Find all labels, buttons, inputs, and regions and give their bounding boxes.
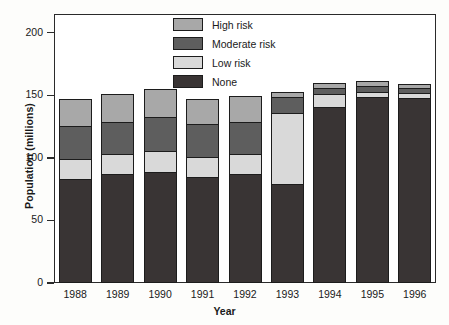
y-axis-tick-mark	[47, 157, 54, 158]
x-axis-title: Year	[0, 305, 449, 317]
stacked-bar-chart: Population (millions) 050100150200 19881…	[0, 0, 449, 325]
bar-segment	[186, 157, 219, 178]
legend-swatch	[173, 18, 203, 31]
bar-segment	[101, 122, 134, 156]
bar-segment	[59, 99, 92, 126]
bar-stack	[144, 90, 177, 283]
y-axis-tick-mark	[47, 282, 54, 283]
legend-item: Low risk	[173, 54, 333, 71]
y-axis-tick-mark	[47, 220, 54, 221]
legend-item: High risk	[173, 16, 333, 33]
legend-item: Moderate risk	[173, 35, 333, 52]
bar-stack	[398, 85, 431, 283]
y-axis-tick-label: 50	[31, 213, 43, 225]
bar-stack	[229, 97, 262, 283]
bar-segment	[356, 81, 389, 87]
bar-stack	[101, 95, 134, 283]
bar-segment	[186, 177, 219, 283]
bar-segment	[59, 179, 92, 283]
bar-segment	[186, 99, 219, 125]
bar-segment	[271, 97, 304, 114]
bar-stack	[356, 82, 389, 283]
legend-swatch	[173, 75, 203, 88]
legend-label: Low risk	[212, 57, 251, 69]
bar-segment	[229, 122, 262, 156]
y-axis-tick-label: 200	[25, 26, 43, 38]
bar-segment	[144, 117, 177, 152]
legend-label: None	[212, 76, 237, 88]
bar-segment	[59, 126, 92, 161]
y-axis-tick-mark	[47, 32, 54, 33]
bar-stack	[313, 84, 346, 283]
bar-segment	[101, 154, 134, 175]
bar-segment	[229, 154, 262, 175]
bar-segment	[271, 92, 304, 98]
x-axis-tick-label: 1996	[390, 288, 440, 300]
bar-segment	[356, 86, 389, 93]
y-axis-tick-label: 0	[37, 276, 43, 288]
bar-segment	[271, 184, 304, 283]
bar-segment	[229, 96, 262, 123]
y-axis-tick-label: 150	[25, 88, 43, 100]
bar-segment	[59, 159, 92, 180]
bar-segment	[313, 107, 346, 283]
bar-segment	[229, 174, 262, 283]
bar-segment	[101, 94, 134, 123]
legend-item: None	[173, 73, 333, 90]
bar-segment	[101, 174, 134, 283]
bar-segment	[398, 84, 431, 89]
bar-segment	[356, 97, 389, 283]
bar-stack	[59, 100, 92, 283]
y-axis-tick-label: 100	[25, 151, 43, 163]
bar-stack	[186, 100, 219, 283]
bar-segment	[144, 89, 177, 118]
bar-segment	[144, 172, 177, 283]
bar-segment	[398, 98, 431, 283]
legend-label: High risk	[212, 19, 253, 31]
bar-segment	[186, 124, 219, 158]
bar-segment	[313, 94, 346, 108]
bar-stack	[271, 93, 304, 283]
y-axis-tick-mark	[47, 95, 54, 96]
legend-label: Moderate risk	[212, 38, 276, 50]
bar-segment	[144, 151, 177, 173]
chart-legend: High riskModerate riskLow riskNone	[173, 16, 333, 92]
legend-swatch	[173, 56, 203, 69]
bar-segment	[271, 113, 304, 185]
legend-swatch	[173, 37, 203, 50]
